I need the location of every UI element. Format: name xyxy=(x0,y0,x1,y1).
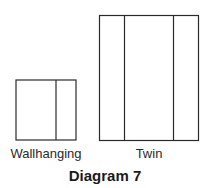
twin-label: Twin xyxy=(136,146,163,161)
twin-outline xyxy=(100,16,199,141)
wallhanging-outline xyxy=(16,80,76,140)
wallhanging-label: Wallhanging xyxy=(10,146,81,161)
diagram-title: Diagram 7 xyxy=(69,167,142,184)
twin-quilt xyxy=(100,16,199,141)
wallhanging-quilt xyxy=(16,80,76,140)
